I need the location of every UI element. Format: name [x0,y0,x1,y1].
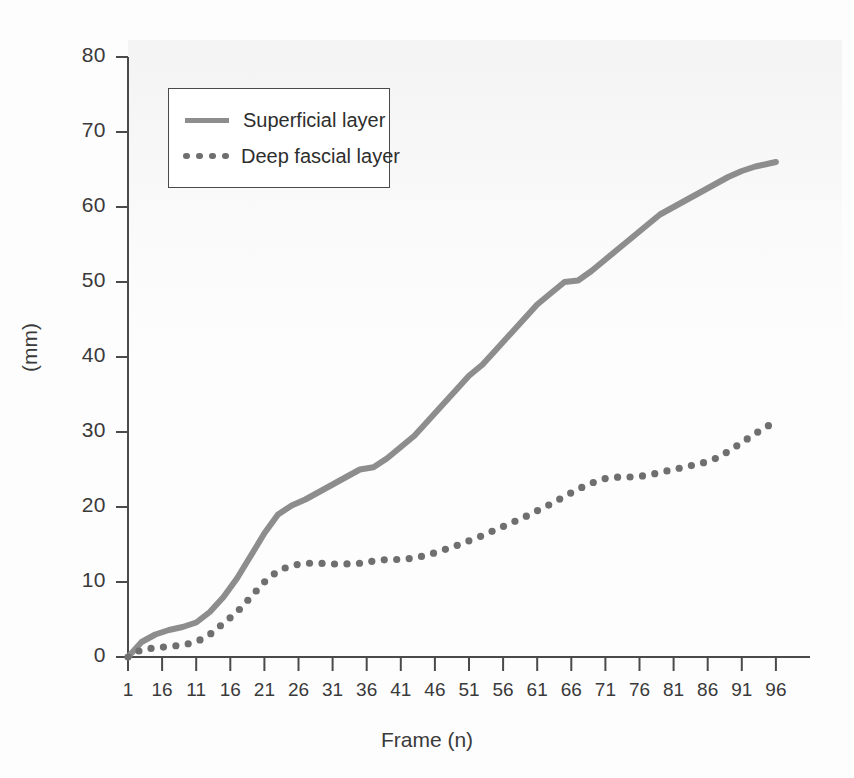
data-point [545,501,552,508]
solid-line-swatch-icon [183,110,231,130]
series-superficial-layer [128,162,776,657]
data-point [226,614,233,621]
data-point [261,578,268,585]
data-point [578,484,585,491]
data-point [723,449,730,456]
data-point [244,597,251,604]
y-axis-tick-label: 60 [66,193,106,217]
data-point [294,561,301,568]
data-point [442,546,449,553]
data-point [271,570,278,577]
data-point [556,496,563,503]
data-point [282,564,289,571]
data-point [688,462,695,469]
data-point [465,537,472,544]
data-point [393,556,400,563]
x-axis-ticks [128,657,776,671]
data-point [196,636,203,643]
data-point [651,470,658,477]
data-point [765,422,772,429]
series-deep-fascial-layer [124,422,772,661]
y-axis-tick-label: 0 [66,643,106,667]
data-point [500,523,507,530]
data-point [207,630,214,637]
data-point [331,560,338,567]
data-point [700,459,707,466]
data-point [567,489,574,496]
data-point [185,640,192,647]
data-point [477,533,484,540]
y-axis-tick-label: 70 [66,118,106,142]
data-point [744,435,751,442]
data-point [160,644,167,651]
data-point [318,560,325,567]
data-point [124,653,131,660]
plot-area [0,0,854,778]
data-point [343,560,350,567]
y-axis-tick-label: 50 [66,268,106,292]
data-point [488,528,495,535]
y-axis-ticks [116,57,128,657]
legend-item-superficial-layer: Superficial layer [169,103,391,137]
data-point [602,475,609,482]
data-point [454,542,461,549]
data-point [217,622,224,629]
y-axis-tick-label: 30 [66,418,106,442]
y-axis-tick-label: 10 [66,568,106,592]
data-point [626,473,633,480]
data-point [590,479,597,486]
data-point [381,556,388,563]
data-point [368,558,375,565]
x-axis-tick-label: 96 [756,679,796,701]
legend-label-deep-fascial-layer: Deep fascial layer [241,145,400,168]
data-point [430,550,437,557]
data-point [135,647,142,654]
data-point [406,555,413,562]
data-point [754,429,761,436]
data-point [172,642,179,649]
y-axis-tick-label: 80 [66,43,106,67]
y-axis-tick-label: 40 [66,343,106,367]
data-point [663,467,670,474]
data-point [523,513,530,520]
legend-label-superficial-layer: Superficial layer [243,109,385,132]
data-point [712,455,719,462]
figure-container: 01020304050607080 1161116212631364146515… [0,0,854,778]
data-series-layer [124,162,776,661]
data-point [236,606,243,613]
data-point [356,560,363,567]
data-point [306,560,313,567]
legend-item-deep-fascial-layer: Deep fascial layer [169,139,391,173]
data-point [676,465,683,472]
data-point [639,472,646,479]
data-point [614,474,621,481]
data-point [534,507,541,514]
chart-legend: Superficial layer Deep fascial layer [168,88,390,188]
data-point [418,553,425,560]
data-point [147,645,154,652]
dotted-line-swatch-icon [183,146,229,166]
data-point [253,587,260,594]
y-axis-tick-label: 20 [66,493,106,517]
y-axis-title: (mm) [18,323,42,372]
x-axis-title: Frame (n) [0,728,854,752]
data-point [733,442,740,449]
data-point [511,518,518,525]
